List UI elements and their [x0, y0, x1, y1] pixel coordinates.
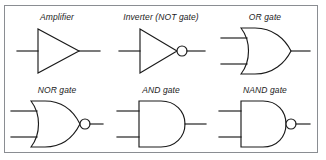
- symbol-label-nand-gate: NAND gate: [243, 85, 287, 95]
- symbol-label-nor-gate: NOR gate: [38, 85, 77, 95]
- symbol-cell-or-gate: OR gate: [213, 6, 317, 79]
- symbol-label-inverter: Inverter (NOT gate): [123, 12, 199, 22]
- inverter-triangle: [140, 29, 177, 73]
- nor-gate-shield: [31, 101, 80, 147]
- nor-gate-symbol: [7, 96, 107, 152]
- symbol-label-amplifier: Amplifier: [40, 12, 74, 22]
- symbol-cell-nor-gate: NOR gate: [5, 79, 109, 152]
- and-gate-symbol: [111, 96, 211, 152]
- nand-gate-dshape: [241, 101, 286, 147]
- symbol-cell-inverter: Inverter (NOT gate): [109, 6, 213, 79]
- symbol-cell-amplifier: Amplifier: [5, 6, 109, 79]
- or-gate-symbol: [215, 23, 315, 79]
- amplifier-triangle: [38, 29, 79, 73]
- symbol-cell-nand-gate: NAND gate: [213, 79, 317, 152]
- nand-gate-symbol: [215, 96, 315, 152]
- symbol-cell-and-gate: AND gate: [109, 79, 213, 152]
- nand-gate-bubble-icon: [286, 119, 296, 129]
- symbol-label-and-gate: AND gate: [142, 85, 180, 95]
- symbol-label-or-gate: OR gate: [249, 12, 281, 22]
- inverter-bubble-icon: [177, 46, 187, 56]
- logic-symbols-figure: Amplifier Inverter (NOT gate) OR gate: [0, 0, 326, 160]
- symbol-grid: Amplifier Inverter (NOT gate) OR gate: [5, 6, 317, 152]
- nor-gate-bubble-icon: [80, 119, 90, 129]
- or-gate-shield: [241, 28, 291, 74]
- inverter-symbol: [111, 23, 211, 79]
- and-gate-dshape: [139, 101, 185, 147]
- amplifier-symbol: [7, 23, 107, 79]
